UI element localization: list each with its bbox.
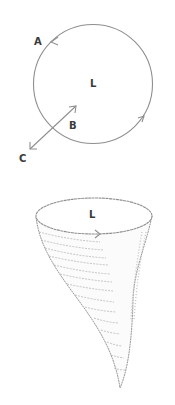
label-a: A: [34, 36, 42, 47]
label-b: B: [69, 120, 77, 131]
label-c: C: [19, 153, 26, 164]
label-l-vortex: L: [89, 209, 96, 220]
vortex-diagram: L: [36, 198, 152, 388]
diagram-canvas: A L B C: [0, 0, 175, 405]
label-l: L: [90, 78, 97, 89]
circle-diagram: A L B C: [19, 25, 153, 165]
